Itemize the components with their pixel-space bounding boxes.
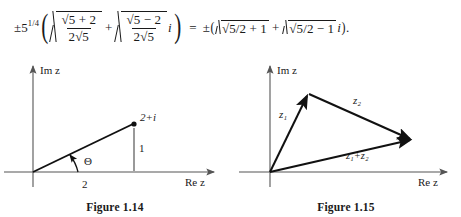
lhs-plus-minus: ± bbox=[14, 21, 21, 34]
height-length-label: 1 bbox=[139, 142, 145, 154]
rhs-plus-minus: ± bbox=[203, 21, 210, 34]
imaginary-axis-label: Im z bbox=[40, 64, 60, 76]
vector-z1-plus-z2 bbox=[270, 140, 410, 172]
figure-1-15-diagram: z₁ z₂ z₁+z₂ Im z Re z bbox=[231, 52, 461, 202]
lhs-plus-operator: + bbox=[102, 21, 115, 34]
rhs-radical-term-2: √5/2 − 1 bbox=[282, 20, 336, 35]
page-canvas: ±51/4 ( √5 + 2 2√5 + √5 − 2 bbox=[0, 0, 461, 217]
fraction-2: √5 − 2 2√5 bbox=[122, 13, 165, 43]
equation-rhs: ±( √5/2 + 1 + √5/2 − 1 i ) . bbox=[203, 20, 350, 35]
imaginary-axis-label: Im z bbox=[277, 64, 297, 76]
rhs-radical-term-1: √5/2 + 1 bbox=[215, 20, 269, 35]
vector-z1 bbox=[270, 96, 307, 172]
base-length-label: 2 bbox=[82, 178, 88, 190]
figure-1-14: Im z Re z 2+i Θ 2 1 Figure 1.14 bbox=[0, 52, 230, 217]
radical-sign-icon bbox=[50, 11, 56, 43]
radical-sign-icon bbox=[282, 20, 288, 35]
lhs-imaginary-unit: i bbox=[167, 21, 172, 34]
figure-1-14-caption: Figure 1.14 bbox=[0, 201, 230, 213]
rhs-plus-operator: + bbox=[269, 21, 282, 34]
display-equation: ±51/4 ( √5 + 2 2√5 + √5 − 2 bbox=[14, 4, 454, 50]
vector-z2-label: z₂ bbox=[352, 94, 361, 106]
rhs-term-2: √5/2 − 1 bbox=[289, 22, 334, 35]
radical-sign-icon bbox=[215, 20, 221, 35]
fraction-1: √5 + 2 2√5 bbox=[57, 13, 100, 43]
fraction-1-denominator: 2√5 bbox=[67, 28, 91, 44]
rhs-term-1: √5/2 + 1 bbox=[222, 22, 267, 35]
equation-period: . bbox=[346, 21, 349, 34]
radical-sign-icon bbox=[115, 11, 121, 43]
rhs-imaginary-unit: i bbox=[336, 21, 341, 34]
figure-1-15: z₁ z₂ z₁+z₂ Im z Re z Figure 1.15 bbox=[231, 52, 461, 217]
real-axis-label: Re z bbox=[418, 176, 438, 188]
point-label-2-plus-i: 2+i bbox=[140, 111, 156, 123]
radical-term-1: √5 + 2 2√5 bbox=[50, 11, 102, 43]
fraction-1-numerator: √5 + 2 bbox=[59, 13, 98, 28]
angle-arc bbox=[70, 155, 78, 172]
figure-1-14-diagram: Im z Re z 2+i Θ 2 1 bbox=[0, 52, 230, 202]
equation-lhs: ±51/4 ( √5 + 2 2√5 + √5 − 2 bbox=[14, 11, 183, 43]
radical-term-2: √5 − 2 2√5 bbox=[115, 11, 167, 43]
figure-1-15-caption: Figure 1.15 bbox=[231, 201, 461, 213]
real-axis-label: Re z bbox=[185, 176, 205, 188]
equals-sign: = bbox=[183, 21, 202, 34]
lhs-exponent: 1/4 bbox=[28, 19, 39, 28]
vector-sum-label: z₁+z₂ bbox=[345, 150, 369, 161]
point-2-plus-i-marker bbox=[131, 121, 136, 126]
lhs-base: 5 bbox=[21, 21, 28, 34]
fraction-2-numerator: √5 − 2 bbox=[124, 13, 163, 28]
fraction-2-denominator: 2√5 bbox=[132, 28, 156, 44]
vector-2-plus-i bbox=[33, 124, 133, 172]
vector-z1-label: z₁ bbox=[278, 108, 287, 120]
angle-label-theta: Θ bbox=[84, 155, 92, 167]
